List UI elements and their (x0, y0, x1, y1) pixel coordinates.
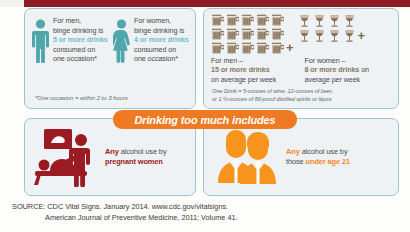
two-teens-icon (212, 129, 280, 185)
beer-mug-grid (211, 14, 286, 55)
top-bar-left-edge (0, 0, 24, 7)
underage-text-rest: alcohol use by (300, 147, 348, 156)
beer-mug-icon (241, 14, 256, 27)
beer-mug-icon (256, 42, 271, 55)
beer-mug-icon (271, 14, 286, 27)
heavy-footnote-line1: One Drink = 5-ounces of wine, 12-ounces … (212, 88, 393, 95)
beer-mug-icon (241, 42, 256, 55)
wine-glass-icon (343, 14, 358, 28)
beer-mug-icon (226, 42, 241, 55)
beer-mug-icon (256, 14, 271, 27)
underage-panel: Any alcohol use by those under age 21 (203, 118, 399, 196)
heavy-footnote-line2: or 1 ½-ounces of 80-proof distilled spir… (212, 96, 393, 103)
underage-inner: Any alcohol use by those under age 21 (204, 119, 398, 195)
underage-highlight: Any (286, 147, 300, 156)
wine-glass-block: + (298, 14, 366, 43)
pregnant-line2: pregnant women (105, 157, 166, 167)
binge-men-line2: binge drinking is (53, 26, 108, 36)
heavy-women-line2-suffix: on (359, 65, 369, 74)
female-figure-icon (113, 16, 130, 64)
pregnant-ultrasound-icon (33, 127, 99, 187)
underage-line2-highlight: under age 21 (306, 157, 350, 166)
drinking-too-much-banner: Drinking too much includes (113, 110, 297, 129)
wine-glass-icon (298, 14, 313, 28)
heavy-men-highlight: 15 or more drinks (211, 65, 299, 74)
heavy-women-line1: For women – (305, 56, 393, 65)
top-red-bar (24, 0, 410, 7)
women-plus-sign: + (358, 29, 366, 43)
binge-men-column: For men, binge drinking is 5 or more dri… (32, 16, 109, 64)
underage-line1: Any alcohol use by (286, 147, 350, 157)
heavy-drinking-panel: + + For men – 15 or more drinks on avera… (203, 8, 399, 109)
heavy-women-line-mid: 8 or more drinks on (305, 65, 393, 74)
infographic-root: For men, binge drinking is 5 or more dri… (0, 0, 410, 232)
wine-glass-icon (313, 14, 328, 28)
binge-men-line3: consumed on (53, 45, 108, 55)
binge-women-highlight: 4 or more drinks (134, 35, 189, 45)
pregnant-inner: Any alcohol use by pregnant women (25, 119, 195, 195)
binge-footnote: *One occasion = within 2 to 3 hours (35, 95, 128, 101)
binge-columns: For men, binge drinking is 5 or more dri… (25, 9, 195, 64)
heavy-columns: For men – 15 or more drinks on average p… (204, 55, 398, 84)
beer-mug-icon (211, 28, 226, 41)
binge-men-line1: For men, (53, 16, 108, 26)
heavy-women-highlight: 8 or more drinks (305, 65, 360, 74)
pregnant-highlight: Any (105, 147, 119, 156)
binge-women-line1: For women, (134, 16, 189, 26)
beer-mug-icon (226, 14, 241, 27)
wine-glass-icon (313, 29, 328, 43)
beer-mug-icon (271, 42, 286, 55)
beer-mug-icon (256, 28, 271, 41)
binge-women-line4: one occasion* (134, 54, 189, 64)
pregnant-women-panel: Any alcohol use by pregnant women (24, 118, 196, 196)
heavy-footnote: One Drink = 5-ounces of wine, 12-ounces … (212, 88, 393, 103)
source-citation: SOURCE: CDC Vital Signs. January 2014. w… (12, 202, 238, 223)
heavy-women-column: For women – 8 or more drinks on average … (305, 56, 393, 84)
heavy-women-line2: average per week (305, 75, 393, 84)
beer-mug-icon (211, 42, 226, 55)
wine-glass-icon (328, 14, 343, 28)
wine-glass-icon (343, 29, 358, 43)
heavy-men-line2: on average per week (211, 75, 299, 84)
beer-mug-block: + (211, 14, 294, 55)
men-plus-sign: + (286, 41, 294, 55)
underage-line2-prefix: those (286, 157, 306, 166)
pregnant-text: Any alcohol use by pregnant women (105, 147, 166, 167)
wine-glass-icon (298, 29, 313, 43)
binge-drinking-panel: For men, binge drinking is 5 or more dri… (24, 8, 196, 109)
pregnant-line1: Any alcohol use by (105, 147, 166, 157)
binge-women-text: For women, binge drinking is 4 or more d… (134, 16, 189, 64)
heavy-men-column: For men – 15 or more drinks on average p… (211, 56, 299, 84)
binge-women-line2: binge drinking is (134, 26, 189, 36)
underage-line2: those under age 21 (286, 157, 350, 167)
wine-glass-grid (298, 14, 358, 43)
binge-men-text: For men, binge drinking is 5 or more dri… (53, 16, 108, 64)
source-line2: American Journal of Preventive Medicine,… (12, 213, 238, 224)
beer-mug-icon (241, 28, 256, 41)
male-figure-icon (32, 16, 49, 64)
binge-women-line3: consumed on (134, 45, 189, 55)
binge-women-column: For women, binge drinking is 4 or more d… (113, 16, 190, 64)
heavy-men-line1: For men – (211, 56, 299, 65)
beer-mug-icon (226, 28, 241, 41)
source-line1: SOURCE: CDC Vital Signs. January 2014. w… (12, 202, 238, 213)
binge-men-line4: one occasion* (53, 54, 108, 64)
underage-text: Any alcohol use by those under age 21 (286, 147, 350, 167)
glass-icon-area: + + (204, 9, 398, 55)
beer-mug-icon (271, 28, 286, 41)
binge-men-highlight: 5 or more drinks (53, 35, 108, 45)
beer-mug-icon (211, 14, 226, 27)
pregnant-text-rest: alcohol use by (119, 147, 167, 156)
wine-glass-icon (328, 29, 343, 43)
